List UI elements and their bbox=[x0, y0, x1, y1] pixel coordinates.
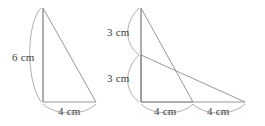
right-lower-triangle-outline bbox=[141, 55, 245, 102]
left-triangle-base-label: 4 cm bbox=[58, 105, 81, 117]
right-triangles-group bbox=[128, 8, 245, 113]
right-upper-height-label: 3 cm bbox=[107, 26, 130, 38]
left-triangle-outline bbox=[43, 8, 96, 102]
left-triangle-height-label: 6 cm bbox=[12, 51, 35, 63]
right-base-label-second: 4 cm bbox=[207, 105, 230, 117]
right-base-label-first: 4 cm bbox=[154, 105, 177, 117]
left-triangle-group bbox=[30, 8, 96, 113]
right-lower-height-label: 3 cm bbox=[107, 72, 130, 84]
right-upper-triangle-outline bbox=[141, 8, 193, 102]
